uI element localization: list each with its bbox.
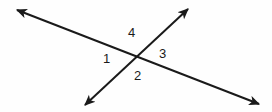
angle-label-4: 4 bbox=[128, 26, 135, 39]
line-southwest-northeast bbox=[85, 9, 188, 105]
angle-label-3: 3 bbox=[159, 47, 166, 60]
angle-label-2: 2 bbox=[134, 69, 141, 82]
angle-label-1: 1 bbox=[103, 52, 110, 65]
line-northwest-southeast bbox=[17, 10, 259, 104]
lines-svg bbox=[0, 0, 272, 112]
angle-diagram-canvas: 4 1 3 2 bbox=[0, 0, 272, 112]
